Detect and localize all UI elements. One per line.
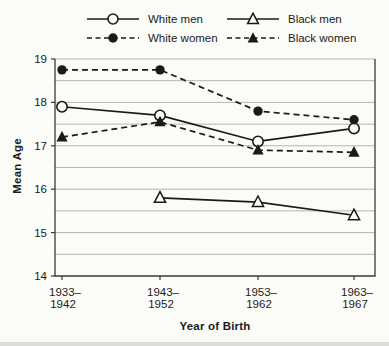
marker-circle-filled-white-women xyxy=(253,106,262,115)
x-tick-label: 1967 xyxy=(342,298,368,310)
series-line-white-women xyxy=(62,70,354,120)
y-tick-label: 16 xyxy=(34,183,47,195)
legend-label-black-women: Black women xyxy=(288,31,356,45)
y-tick-label: 18 xyxy=(34,96,47,108)
page-edge-strip xyxy=(0,342,389,346)
x-tick-label: 1933– xyxy=(49,286,82,298)
marker-circle-open-white-men xyxy=(349,123,359,133)
marker-triangle-open-black-men xyxy=(154,192,165,203)
marker-circle-filled-white-women xyxy=(57,65,66,74)
y-axis-title: Mean Age xyxy=(11,138,23,194)
marker-circle-filled-white-women xyxy=(349,115,358,124)
x-tick-label: 1942 xyxy=(50,298,76,310)
legend-item-black-women: Black women xyxy=(226,31,356,45)
x-tick-label: 1962 xyxy=(246,298,272,310)
x-tick-label: 1953– xyxy=(245,286,278,298)
y-tick-label: 15 xyxy=(34,227,47,239)
x-axis-title: Year of Birth xyxy=(55,320,375,332)
legend-sample-solid-open-triangle-icon xyxy=(226,12,280,26)
legend-sample-solid-open-circle-icon xyxy=(86,12,140,26)
legend-label-white-women: White women xyxy=(148,31,218,45)
legend-label-black-men: Black men xyxy=(288,12,342,26)
x-tick-label: 1943– xyxy=(147,286,180,298)
plot-area: 1415161718191933–19421943–19521953–19621… xyxy=(0,0,389,346)
legend-label-white-men: White men xyxy=(148,12,203,26)
legend-item-black-men: Black men xyxy=(226,12,342,26)
x-tick-label: 1952 xyxy=(148,298,174,310)
chart-figure: 1415161718191933–19421943–19521953–19621… xyxy=(0,0,389,346)
y-tick-label: 19 xyxy=(34,53,47,65)
legend-sample-dashed-filled-triangle-icon xyxy=(226,31,280,45)
y-tick-label: 14 xyxy=(34,270,47,282)
legend-item-white-women: White women xyxy=(86,31,218,45)
marker-circle-open-white-men xyxy=(57,102,67,112)
legend-item-white-men: White men xyxy=(86,12,203,26)
series-line-black-women xyxy=(62,122,354,152)
y-tick-label: 17 xyxy=(34,140,47,152)
x-tick-label: 1963– xyxy=(341,286,374,298)
marker-circle-filled-white-women xyxy=(155,65,164,74)
legend-sample-dashed-filled-circle-icon xyxy=(86,31,140,45)
